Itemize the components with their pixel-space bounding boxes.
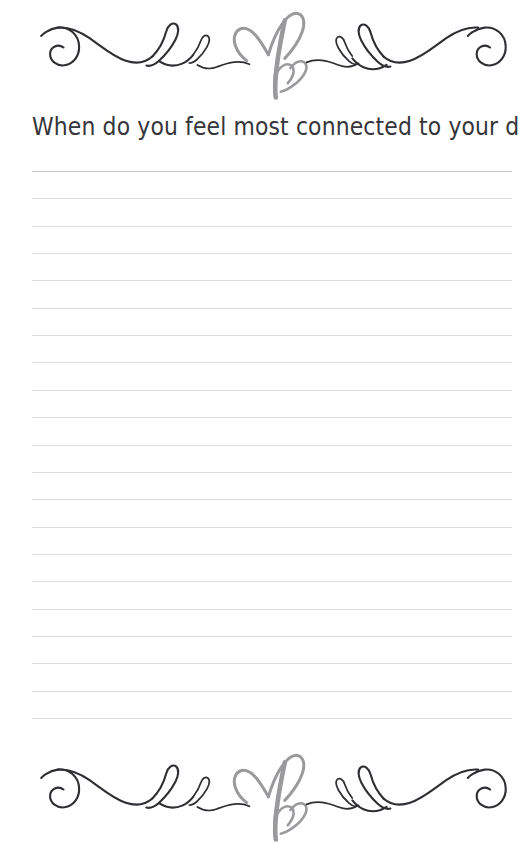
writing-line[interactable] <box>32 691 512 692</box>
flourish-right-swash-icon <box>383 769 506 807</box>
writing-line[interactable] <box>32 171 512 172</box>
flourish-right-loops-icon <box>307 767 391 812</box>
writing-line[interactable] <box>32 253 512 254</box>
writing-line[interactable] <box>32 390 512 391</box>
writing-line[interactable] <box>32 636 512 637</box>
writing-line[interactable] <box>32 417 512 418</box>
writing-line[interactable] <box>32 609 512 610</box>
writing-line[interactable] <box>32 335 512 336</box>
writing-line[interactable] <box>32 663 512 664</box>
writing-line[interactable] <box>32 280 512 281</box>
writing-lines-area[interactable] <box>0 0 520 845</box>
writing-line[interactable] <box>32 226 512 227</box>
writing-line[interactable] <box>32 581 512 582</box>
journal-page: When do you feel most connected to your … <box>0 0 520 845</box>
writing-line[interactable] <box>32 198 512 199</box>
writing-line[interactable] <box>32 472 512 473</box>
bottom-flourish-ornament <box>0 742 520 842</box>
flourish-left-swash-icon <box>41 769 152 807</box>
double-heart-icon <box>234 755 306 839</box>
writing-line[interactable] <box>32 554 512 555</box>
writing-line[interactable] <box>32 445 512 446</box>
writing-line[interactable] <box>32 499 512 500</box>
writing-line[interactable] <box>32 362 512 363</box>
writing-line[interactable] <box>32 718 512 719</box>
writing-line[interactable] <box>32 527 512 528</box>
writing-line[interactable] <box>32 308 512 309</box>
